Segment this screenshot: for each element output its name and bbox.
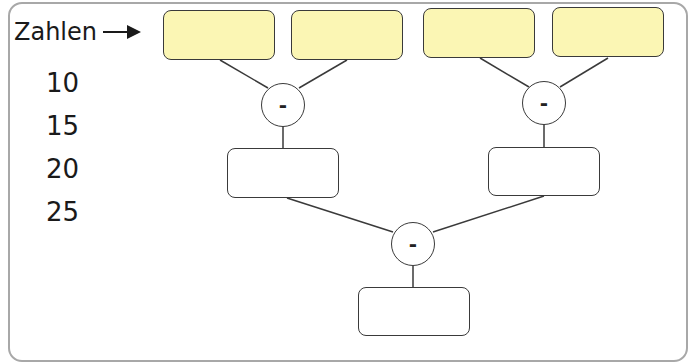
input-box-1[interactable] [163,10,275,60]
minus-operator-left: - [261,83,305,127]
number-item: 10 [46,62,79,105]
result-box[interactable] [358,287,470,336]
input-box-4[interactable] [552,7,664,57]
number-item: 15 [46,105,79,148]
minus-operator-right: - [522,81,566,125]
minus-operator-bottom: - [391,222,435,266]
zahlen-text: Zahlen [14,18,97,46]
number-item: 25 [46,191,79,234]
middle-box-left[interactable] [227,148,339,198]
input-box-2[interactable] [291,10,403,60]
middle-box-right[interactable] [488,147,600,196]
zahlen-label: Zahlen [14,18,141,46]
input-box-3[interactable] [423,8,535,58]
arrow-right-icon [103,22,141,42]
number-item: 20 [46,148,79,191]
number-list: 10 15 20 25 [46,62,79,234]
